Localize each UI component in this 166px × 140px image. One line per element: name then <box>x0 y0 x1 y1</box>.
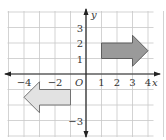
x-tick-label: −2 <box>48 77 63 88</box>
dark-arrow-right-icon <box>102 35 149 66</box>
y-axis-down-arrow-icon <box>84 131 89 138</box>
x-tick-label: −4 <box>17 77 32 88</box>
x-tick-label: 4 <box>145 77 151 88</box>
x-tick-label: 3 <box>129 77 135 88</box>
x-tick-label: 2 <box>114 77 120 88</box>
coordinate-plane: y x O −4−21234321−3 <box>0 0 166 140</box>
y-axis-label: y <box>90 9 97 20</box>
x-axis-right-arrow-icon <box>154 72 161 77</box>
x-tick-label: 1 <box>98 77 104 88</box>
y-axis-up-arrow-icon <box>84 8 89 15</box>
x-axis-label: x <box>152 77 158 88</box>
origin-label: O <box>75 77 83 88</box>
x-axis-left-arrow-icon <box>4 72 11 77</box>
y-tick-label: 2 <box>77 38 83 49</box>
y-tick-label: 3 <box>77 23 83 34</box>
y-tick-label: −3 <box>68 116 83 127</box>
y-tick-label: 1 <box>77 54 83 65</box>
